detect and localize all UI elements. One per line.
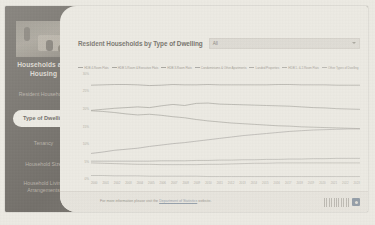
chart-series-line [91,85,360,86]
logo-emblem-icon [352,198,360,206]
dwelling-type-select-value: All [213,41,218,46]
y-axis-tick: 15% [83,125,89,129]
chevron-down-icon [352,42,356,44]
legend-swatch-icon [161,67,166,68]
content-panel: Resident Households by Type of Dwelling … [60,6,368,212]
x-axis-tick: 2017 [285,181,291,188]
x-axis-tick: 2008 [182,181,188,188]
legend-item[interactable]: HDB 1- & 2-Room Flats [282,66,319,70]
y-axis-tick: 25% [83,89,89,93]
chart-plot-area: 0%5%10%15%20%25%30% [78,74,360,179]
x-axis-tick: 2001 [102,181,108,188]
sidebar-item-label: Tenancy [34,140,53,147]
legend-swatch-icon [322,67,327,68]
app-page: Households and Housing Resident Househol… [0,0,375,225]
x-axis-tick: 2005 [148,181,154,188]
x-axis-tick: 2021 [331,181,337,188]
x-axis-tick: 2010 [205,181,211,188]
x-axis-tick: 2022 [342,181,348,188]
x-axis-tick: 2023 [353,181,359,188]
legend-item[interactable]: Landed Properties [249,66,279,70]
legend-label: Landed Properties [256,66,280,70]
legend-label: Condominiums & Other Apartments [201,66,247,70]
singapore-department-of-statistics-logo [324,196,360,208]
dwelling-type-select[interactable]: All [209,38,360,49]
x-axis-tick: 2007 [171,181,177,188]
y-axis: 0%5%10%15%20%25%30% [78,74,90,179]
line-chart [91,74,360,179]
x-axis-tick: 2012 [228,181,234,188]
x-axis-tick: 2003 [125,181,131,188]
app-frame: Households and Housing Resident Househol… [5,6,368,212]
legend-swatch-icon [78,67,83,68]
legend-label: HDB 4-Room Flats [84,66,108,70]
x-axis-tick: 2000 [91,181,97,188]
y-axis-tick: 0% [85,177,89,181]
x-axis-tick: 2014 [251,181,257,188]
legend-label: HDB 3-Room Flats [167,66,191,70]
x-axis-tick: 2004 [137,181,143,188]
x-axis-tick: 2016 [274,181,280,188]
page-title: Resident Households by Type of Dwelling [78,40,203,47]
legend-item[interactable]: Condominiums & Other Apartments [195,66,247,70]
chart-header: Resident Households by Type of Dwelling … [78,37,360,49]
x-axis-tick: 2013 [239,181,245,188]
footer-text: For more information please visit the De… [100,199,211,203]
legend-swatch-icon [195,67,200,68]
department-of-statistics-link[interactable]: Department of Statistics [159,199,197,203]
legend-item[interactable]: HDB 5-Room & Executive Flats [112,66,159,70]
y-axis-tick: 30% [83,72,89,76]
legend-label: HDB 1- & 2-Room Flats [288,66,318,70]
legend-label: Other Types of Dwelling [328,66,359,70]
chart-series-line [91,111,360,129]
x-axis-tick: 2006 [160,181,166,188]
legend-swatch-icon [112,67,117,68]
footer-bar: For more information please visit the De… [60,191,368,212]
legend-swatch-icon [249,67,254,68]
footer-text-after: website. [197,199,211,203]
y-axis-tick: 10% [83,142,89,146]
x-axis-tick: 2018 [296,181,302,188]
legend-item[interactable]: HDB 3-Room Flats [161,66,192,70]
x-axis: 2000200120022003200420052006200720082009… [91,181,360,188]
chart-series-line [91,163,360,165]
x-axis-tick: 2009 [194,181,200,188]
legend-item[interactable]: Other Types of Dwelling [322,66,359,70]
legend-swatch-icon [282,67,287,68]
x-axis-tick: 2002 [114,181,120,188]
chart-series-line [91,129,360,154]
chart-series-line [91,158,360,161]
x-axis-tick: 2019 [308,181,314,188]
x-axis-tick: 2020 [319,181,325,188]
x-axis-tick: 2015 [262,181,268,188]
sidebar-item-label: Household Size [25,161,61,168]
chart-legend: HDB 4-Room FlatsHDB 5-Room & Executive F… [78,64,362,71]
chart-series-line [91,103,360,110]
y-axis-tick: 5% [85,160,89,164]
logo-wordmark [324,198,350,207]
footer-text-before: For more information please visit the [100,199,159,203]
legend-item[interactable]: HDB 4-Room Flats [78,66,109,70]
chart-svg [91,74,360,179]
y-axis-tick: 20% [83,107,89,111]
legend-label: HDB 5-Room & Executive Flats [118,66,158,70]
x-axis-tick: 2011 [217,181,223,188]
chart-series-line [91,176,360,177]
